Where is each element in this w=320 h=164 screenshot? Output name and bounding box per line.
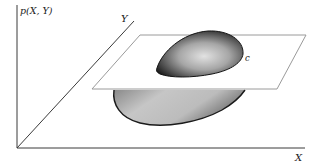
z-axis-label: p(X, Y) (20, 5, 53, 16)
y-axis-label: Y (121, 13, 129, 24)
contour-label: c (245, 53, 250, 63)
x-axis-label: X (294, 152, 303, 163)
probability-surface-figure: p(X, Y) Y X c (0, 0, 320, 164)
